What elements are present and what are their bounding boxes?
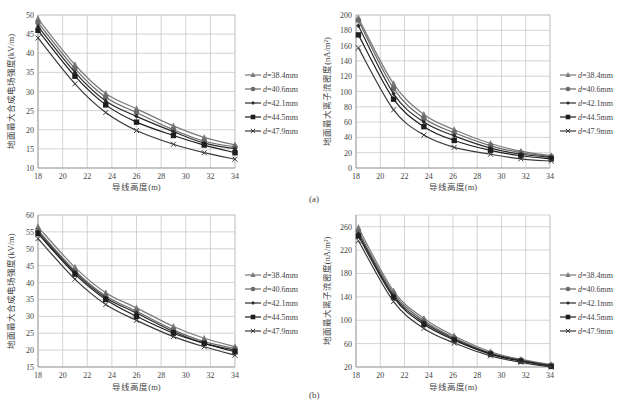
x-tick-label: 22 [401, 371, 409, 380]
x-axis-title: 导线高度(m) [429, 382, 477, 392]
svg-text:d=44.5mm: d=44.5mm [578, 313, 614, 322]
y-tick-label: 15 [26, 145, 34, 154]
x-tick-label: 24 [108, 172, 116, 181]
svg-text:d=42.1mm: d=42.1mm [578, 299, 614, 308]
x-tick-label: 22 [83, 172, 91, 181]
svg-text:d=44.5mm: d=44.5mm [263, 113, 299, 122]
y-tick-label: 60 [26, 211, 34, 220]
x-tick-label: 24 [108, 371, 116, 380]
legend-item: d=44.5mm [560, 313, 614, 322]
legend-item: d=44.5mm [245, 313, 299, 322]
y-tick-label: 180 [340, 26, 352, 35]
series-5 [356, 45, 554, 163]
svg-text:d=47.9mm: d=47.9mm [263, 127, 299, 136]
legend-item: d=44.5mm [560, 113, 614, 122]
svg-text:d=40.6mm: d=40.6mm [263, 285, 299, 294]
y-tick-label: 100 [340, 88, 352, 97]
x-tick-label: 28 [473, 172, 481, 181]
legend: d=38.4mmd=40.6mmd=42.1mmd=44.5mmd=47.9mm [245, 271, 299, 336]
legend-item: d=40.6mm [245, 85, 299, 94]
svg-text:d=38.4mm: d=38.4mm [578, 271, 614, 280]
legend-item: d=40.6mm [245, 285, 299, 294]
y-tick-label: 140 [340, 293, 352, 302]
y-tick-label: 220 [340, 246, 352, 255]
x-tick-label: 34 [546, 371, 554, 380]
y-axis-title: 地面最大离子流密度(nA/m²) [322, 237, 332, 346]
x-tick-label: 32 [522, 371, 530, 380]
y-axis-title: 地面最大合成电场强度(kV/m) [6, 34, 16, 149]
chart-a-right: 1820222426283032340204060801001201401601… [322, 11, 614, 192]
legend-item: d=42.1mm [245, 99, 299, 108]
svg-text:d=38.4mm: d=38.4mm [578, 71, 614, 80]
series-4 [356, 233, 554, 369]
x-tick-label: 26 [133, 172, 141, 181]
legend: d=38.4mmd=40.6mmd=42.1mmd=44.5mmd=47.9mm [560, 71, 614, 136]
x-axis-title: 导线高度(m) [429, 182, 477, 192]
y-tick-label: 35 [26, 295, 34, 304]
y-tick-label: 260 [340, 223, 352, 232]
y-tick-label: 25 [26, 107, 34, 116]
series-3 [356, 231, 553, 368]
svg-text:d=44.5mm: d=44.5mm [578, 113, 614, 122]
y-tick-label: 20 [26, 126, 34, 135]
x-tick-label: 18 [34, 172, 42, 181]
y-tick-label: 30 [26, 88, 34, 97]
x-axis-title: 导线高度(m) [112, 182, 160, 192]
y-tick-label: 15 [26, 363, 34, 372]
legend-item: d=42.1mm [245, 299, 299, 308]
svg-text:d=44.5mm: d=44.5mm [263, 313, 299, 322]
legend-item: d=38.4mm [560, 71, 614, 80]
svg-text:d=38.4mm: d=38.4mm [263, 71, 299, 80]
y-tick-label: 20 [344, 149, 352, 158]
grid [356, 15, 550, 168]
x-tick-label: 28 [157, 371, 165, 380]
y-tick-label: 25 [26, 329, 34, 338]
x-tick-label: 22 [401, 172, 409, 181]
y-tick-label: 45 [26, 30, 34, 39]
y-tick-label: 10 [26, 164, 34, 173]
legend: d=38.4mmd=40.6mmd=42.1mmd=44.5mmd=47.9mm [560, 271, 614, 336]
y-tick-label: 120 [340, 72, 352, 81]
chart-b-right: 1820222426283032342060100140180220260导线高… [322, 215, 614, 392]
y-tick-label: 55 [26, 228, 34, 237]
y-tick-label: 60 [344, 118, 352, 127]
x-tick-label: 22 [83, 371, 91, 380]
x-tick-label: 30 [182, 172, 190, 181]
y-axis-title: 地面最大离子流密度(nA/m²) [322, 37, 332, 146]
x-tick-label: 18 [34, 371, 42, 380]
figure: 182022242628303234101520253035404550导线高度… [0, 0, 624, 408]
legend: d=38.4mmd=40.6mmd=42.1mmd=44.5mmd=47.9mm [245, 71, 299, 136]
x-tick-label: 32 [206, 371, 214, 380]
y-tick-label: 50 [26, 11, 34, 20]
x-tick-label: 20 [376, 172, 384, 181]
series-1 [355, 224, 554, 367]
legend-item: d=47.9mm [245, 327, 299, 336]
x-tick-label: 32 [206, 172, 214, 181]
y-tick-label: 100 [340, 316, 352, 325]
y-tick-label: 50 [26, 245, 34, 254]
x-tick-label: 28 [157, 172, 165, 181]
y-tick-label: 20 [26, 346, 34, 355]
y-tick-label: 40 [26, 279, 34, 288]
y-tick-label: 60 [344, 340, 352, 349]
x-tick-label: 34 [231, 172, 239, 181]
legend-item: d=47.9mm [560, 327, 614, 336]
y-tick-label: 35 [26, 68, 34, 77]
svg-text:d=42.1mm: d=42.1mm [263, 299, 299, 308]
x-tick-label: 26 [449, 172, 457, 181]
x-tick-label: 32 [522, 172, 530, 181]
svg-text:d=40.6mm: d=40.6mm [263, 85, 299, 94]
x-tick-label: 26 [449, 371, 457, 380]
legend-item: d=42.1mm [560, 99, 614, 108]
legend-item: d=40.6mm [560, 285, 614, 294]
legend-item: d=47.9mm [245, 127, 299, 136]
y-tick-label: 40 [26, 49, 34, 58]
y-tick-label: 140 [340, 57, 352, 66]
x-tick-label: 20 [59, 371, 67, 380]
x-tick-label: 30 [498, 371, 506, 380]
legend-item: d=38.4mm [245, 271, 299, 280]
legend-item: d=44.5mm [245, 113, 299, 122]
svg-text:d=38.4mm: d=38.4mm [263, 271, 299, 280]
x-tick-label: 20 [59, 172, 67, 181]
y-tick-label: 180 [340, 269, 352, 278]
